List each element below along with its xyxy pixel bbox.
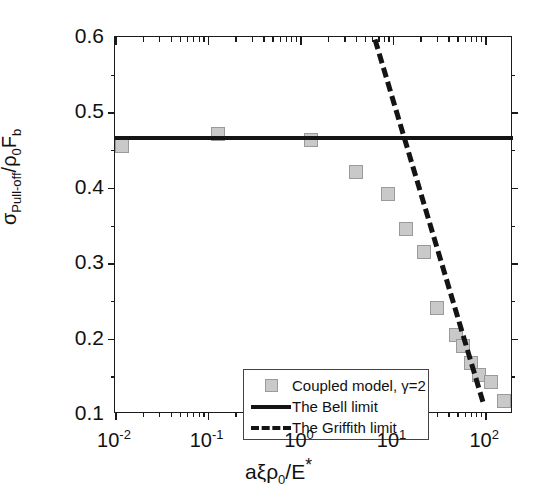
y-tick-label: 0.5 (44, 99, 104, 123)
griffith-limit-line (373, 39, 486, 402)
y-tick-minor (511, 75, 515, 76)
x-tick-minor (203, 412, 204, 417)
x-tick-minor (235, 37, 236, 42)
y-title-F-sub: b (9, 129, 24, 136)
x-tick-minor (291, 37, 292, 42)
y-tick-major (511, 263, 518, 265)
x-tick-minor (180, 37, 181, 42)
x-tick-minor (159, 37, 160, 42)
y-tick-major (511, 339, 518, 341)
x-tick-minor (199, 412, 200, 417)
data-point-marker (430, 301, 444, 315)
y-tick-major (108, 263, 115, 265)
x-tick-label: 10-1 (190, 427, 224, 452)
y-tick-minor (111, 301, 115, 302)
x-tick-minor (476, 37, 477, 42)
x-tick-minor (344, 37, 345, 42)
y-tick-label: 0.3 (44, 250, 104, 274)
x-tick-minor (481, 37, 482, 42)
data-point-marker (399, 222, 413, 236)
x-axis-title: aξρ0/E* (0, 455, 557, 487)
x-tick-major (115, 37, 117, 45)
x-tick-minor (476, 412, 477, 417)
y-tick-major (108, 112, 115, 114)
x-tick-minor (420, 37, 421, 42)
x-tick-minor (388, 37, 389, 42)
data-point-marker (381, 187, 395, 201)
y-title-sigma-sub: Pull-off (9, 172, 24, 212)
x-tick-minor (171, 412, 172, 417)
x-tick-label: 100 (284, 427, 313, 452)
legend-item-bell-limit: The Bell limit (250, 396, 422, 417)
x-tick-label: 10-2 (97, 427, 131, 452)
legend-label-bell-limit: The Bell limit (292, 398, 378, 415)
y-tick-minor (511, 226, 515, 227)
x-tick-minor (199, 37, 200, 42)
x-title-xi: ξ (257, 460, 266, 483)
square-swatch-icon (250, 379, 292, 392)
y-title-rho: ρ (0, 155, 20, 166)
x-tick-minor (481, 412, 482, 417)
y-title-rho-sub: 0 (9, 148, 24, 155)
y-tick-minor (111, 376, 115, 377)
y-tick-label: 0.4 (44, 175, 104, 199)
y-tick-label: 0.1 (44, 401, 104, 425)
bell-limit-line (115, 136, 513, 140)
x-tick-minor (143, 37, 144, 42)
x-tick-major (208, 37, 210, 45)
x-tick-minor (252, 37, 253, 42)
y-title-slash: / (0, 167, 20, 173)
data-point-marker (484, 375, 498, 389)
x-tick-major (485, 37, 487, 45)
y-tick-minor (111, 226, 115, 227)
x-tick-label: 101 (377, 427, 406, 452)
data-point-marker (115, 139, 129, 153)
x-tick-minor (378, 37, 379, 42)
x-tick-minor (235, 412, 236, 417)
y-tick-minor (111, 75, 115, 76)
data-point-marker (417, 245, 431, 259)
y-title-sigma: σ (0, 213, 20, 225)
x-tick-minor (286, 37, 287, 42)
x-tick-minor (437, 37, 438, 42)
x-tick-minor (272, 37, 273, 42)
y-tick-minor (511, 376, 515, 377)
y-tick-minor (511, 301, 515, 302)
legend-label-coupled-model: Coupled model, γ=2 (292, 377, 426, 394)
legend-item-coupled-model: Coupled model, γ=2 (250, 375, 422, 396)
y-tick-label: 0.2 (44, 326, 104, 350)
x-tick-minor (187, 37, 188, 42)
x-title-star: * (305, 455, 312, 475)
x-tick-minor (203, 37, 204, 42)
y-tick-major (511, 188, 518, 190)
x-tick-major (485, 412, 487, 420)
y-tick-major (108, 339, 115, 341)
x-tick-minor (448, 37, 449, 42)
x-tick-minor (457, 37, 458, 42)
x-tick-minor (193, 412, 194, 417)
x-tick-minor (365, 37, 366, 42)
y-tick-major (108, 188, 115, 190)
x-tick-minor (143, 412, 144, 417)
chart-figure: 0.60.50.40.30.20.1 σPull-off/ρ0Fb Couple… (0, 0, 557, 501)
x-tick-minor (180, 412, 181, 417)
x-tick-minor (280, 37, 281, 42)
x-tick-minor (471, 37, 472, 42)
x-tick-minor (296, 37, 297, 42)
x-tick-minor (356, 37, 357, 42)
data-point-marker (349, 165, 363, 179)
x-tick-minor (448, 412, 449, 417)
x-tick-minor (465, 37, 466, 42)
x-title-a: a (245, 460, 257, 483)
x-tick-minor (187, 412, 188, 417)
x-tick-label: 102 (469, 427, 498, 452)
y-title-F: F (0, 136, 20, 148)
x-tick-major (300, 37, 302, 45)
solid-line-swatch-icon (250, 405, 292, 409)
x-title-rho: ρ (266, 460, 278, 483)
data-point-marker (497, 394, 511, 408)
x-tick-minor (263, 37, 264, 42)
x-tick-minor (457, 412, 458, 417)
x-tick-minor (159, 412, 160, 417)
y-tick-major (511, 112, 518, 114)
